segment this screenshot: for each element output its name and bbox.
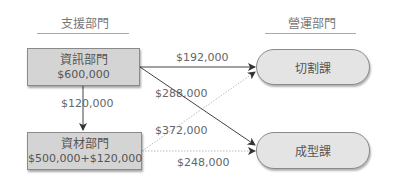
molding-section-box: 成型課 [256,132,370,169]
arrow-materials-to-cutting [142,72,255,151]
materials-dept-amount: $500,000+$120,000 [28,152,141,166]
flow-label-materials-to-molding: $248,000 [177,156,230,169]
materials-dept-name: 資材部門 [28,137,141,152]
cutting-section-box: 切割課 [256,49,370,85]
operating-header-underline [265,33,356,34]
info-dept-box: 資訊部門 $600,000 [27,48,140,86]
support-header-underline [37,33,129,34]
operating-header: 營運部門 [262,14,362,31]
flow-label-materials-to-cutting: $372,000 [155,124,208,137]
flow-label-info-to-cutting: $192,000 [176,51,229,64]
materials-dept-box: 資材部門 $500,000+$120,000 [27,132,142,170]
support-header: 支援部門 [35,14,135,31]
flow-label-info-to-molding: $288,000 [155,87,208,100]
flow-label-info-to-materials: $120,000 [61,97,114,110]
info-dept-name: 資訊部門 [28,53,139,68]
info-dept-amount: $600,000 [28,68,139,82]
